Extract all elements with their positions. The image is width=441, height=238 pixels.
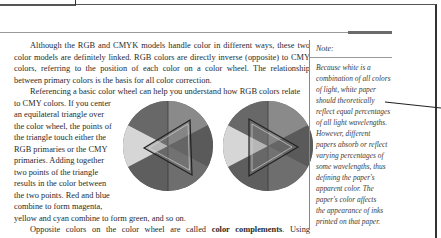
callout-leader-line xyxy=(0,0,441,238)
